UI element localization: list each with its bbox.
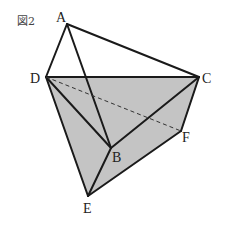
label-e: E	[83, 201, 92, 216]
label-c: C	[202, 71, 211, 86]
geometry-diagram: A D C B F E	[0, 0, 225, 229]
edge-ac	[67, 24, 199, 77]
label-f: F	[182, 130, 190, 145]
label-d: D	[30, 71, 40, 86]
label-a: A	[56, 10, 67, 25]
label-b: B	[112, 150, 121, 165]
edge-ad	[46, 24, 67, 77]
